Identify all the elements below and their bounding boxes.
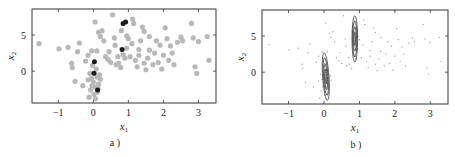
- data-point-small: [309, 43, 310, 44]
- highlighted-point: [120, 47, 125, 52]
- data-point-small: [405, 65, 406, 66]
- highlighted-point: [92, 71, 97, 76]
- data-point: [128, 54, 133, 59]
- data-point: [145, 56, 150, 61]
- data-point-small: [373, 27, 374, 28]
- data-point: [136, 47, 141, 52]
- data-point-small: [302, 68, 303, 69]
- data-point: [75, 49, 80, 54]
- data-point: [189, 21, 194, 26]
- data-point: [112, 35, 117, 40]
- y-tick-label: 5: [251, 31, 256, 42]
- data-point-small: [318, 80, 319, 81]
- data-point-small: [320, 74, 321, 75]
- data-point: [175, 40, 180, 45]
- x-tick-label: 1: [357, 108, 362, 119]
- data-point: [70, 65, 75, 70]
- data-point-small: [385, 53, 386, 54]
- data-point-small: [380, 51, 381, 52]
- data-point: [161, 53, 166, 58]
- data-point-small: [391, 45, 392, 46]
- data-point: [192, 64, 197, 69]
- data-point: [159, 66, 164, 71]
- panel-b-caption: b ): [351, 139, 362, 151]
- data-point: [150, 62, 155, 67]
- data-point: [171, 62, 176, 67]
- data-point: [114, 62, 119, 67]
- panel-a-scatter-plot: −1012305x1x2: [4, 9, 216, 134]
- data-point-small: [307, 52, 308, 53]
- x-tick-label: 0: [322, 108, 327, 119]
- data-point-small: [428, 74, 429, 75]
- x-tick-label: 3: [196, 107, 201, 118]
- data-point: [80, 83, 85, 88]
- data-point: [205, 34, 210, 39]
- data-point-small: [322, 51, 323, 52]
- data-point-small: [414, 41, 415, 42]
- data-point: [142, 61, 147, 66]
- data-point: [87, 95, 92, 100]
- data-point: [163, 25, 168, 30]
- x-tick-label: −1: [283, 108, 294, 119]
- data-point-small: [305, 82, 306, 83]
- data-point-small: [343, 15, 344, 16]
- x-tick-label: 1: [126, 107, 131, 118]
- data-point-small: [325, 22, 326, 23]
- data-point: [36, 41, 41, 46]
- panel-a-caption: a ): [110, 137, 120, 149]
- data-point: [110, 12, 115, 17]
- data-point: [130, 17, 135, 22]
- plot-area: [268, 15, 441, 100]
- data-point: [115, 54, 120, 59]
- data-point-small: [369, 56, 370, 57]
- data-point-small: [363, 19, 364, 20]
- y-axis-label: x2: [4, 51, 18, 61]
- data-point-small: [369, 50, 370, 51]
- x-axis-label: x1: [350, 121, 360, 135]
- data-point: [157, 43, 162, 48]
- data-point-small: [361, 57, 362, 58]
- data-point-small: [268, 44, 269, 45]
- data-point: [168, 43, 173, 48]
- figure: −1012305x1x2 −1012305x1x2 a ) b ): [0, 0, 455, 157]
- panel-b-contour-plot: −1012305x1x2: [234, 10, 448, 135]
- data-point: [69, 61, 74, 66]
- data-point: [154, 38, 159, 43]
- data-point-small: [329, 32, 330, 33]
- data-point-small: [320, 90, 321, 91]
- data-point: [118, 65, 123, 70]
- data-point-small: [327, 51, 328, 52]
- data-point: [73, 79, 78, 84]
- data-point: [83, 58, 88, 63]
- data-point-small: [368, 67, 369, 68]
- data-point-small: [371, 41, 372, 42]
- data-point-small: [403, 53, 404, 54]
- data-point-small: [330, 79, 331, 80]
- data-point-small: [345, 38, 346, 39]
- data-point: [166, 58, 171, 63]
- data-point: [94, 48, 99, 53]
- data-point: [147, 34, 152, 39]
- data-point: [138, 38, 143, 43]
- data-point-small: [332, 31, 333, 32]
- data-point: [97, 72, 102, 77]
- data-point-small: [398, 39, 399, 40]
- data-point-small: [423, 24, 424, 25]
- y-tick-label: 0: [251, 67, 256, 78]
- data-point: [152, 51, 157, 56]
- data-point: [65, 45, 70, 50]
- y-axis-label: x2: [234, 52, 248, 62]
- data-point-small: [359, 39, 360, 40]
- data-point-small: [396, 28, 397, 29]
- x-axis-label: x1: [119, 120, 129, 134]
- data-point: [98, 77, 103, 82]
- highlighted-point: [92, 59, 97, 64]
- data-point-small: [341, 63, 342, 64]
- data-point: [122, 56, 127, 61]
- data-point: [92, 19, 97, 24]
- data-point: [85, 53, 90, 58]
- data-point-small: [330, 75, 331, 76]
- data-point-small: [408, 43, 409, 44]
- data-point-small: [336, 57, 337, 58]
- data-point-small: [345, 45, 346, 46]
